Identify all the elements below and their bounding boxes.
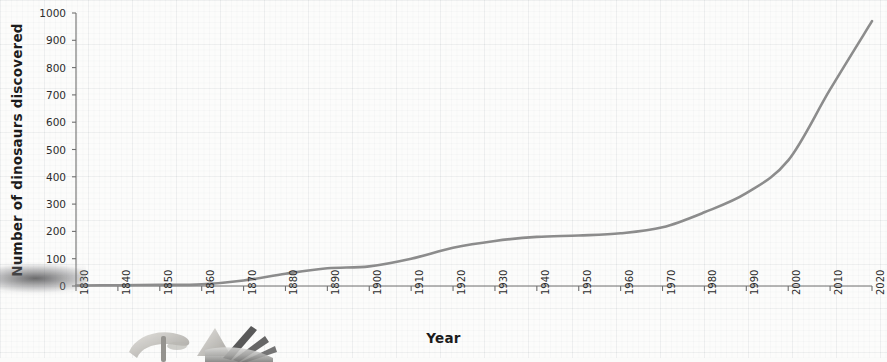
y-tick-label: 800 [24,63,66,74]
y-axis-title-text: Number of dinosaurs discovered [9,23,25,276]
y-tick-label: 100 [24,254,66,265]
x-tick-label: 1990 [750,270,760,295]
x-tick-label: 2020 [876,270,886,295]
x-tick-label: 1850 [164,270,174,295]
y-tick-label: 700 [24,90,66,101]
x-tick-label: 1890 [331,270,341,295]
x-axis-title-text: Year [426,330,460,346]
data-series-line [76,21,872,285]
y-tick-label: 600 [24,117,66,128]
x-tick-label: 1870 [248,270,258,295]
x-tick-label: 1940 [541,270,551,295]
x-tick-label: 1840 [122,270,132,295]
x-tick-label: 2000 [792,270,802,295]
x-tick-label: 1980 [708,270,718,295]
y-tick-label: 200 [24,226,66,237]
y-axis-ticks [72,13,76,286]
x-tick-label: 1900 [373,270,383,295]
x-tick-label: 1930 [499,270,509,295]
x-tick-label: 1970 [667,270,677,295]
y-tick-label: 900 [24,35,66,46]
y-tick-label: 500 [24,145,66,156]
y-axis-title: Number of dinosaurs discovered [6,0,28,300]
x-tick-label: 1830 [80,270,90,295]
y-tick-label: 1000 [24,8,66,19]
x-tick-label: 1920 [457,270,467,295]
x-tick-label: 1910 [415,270,425,295]
x-tick-label: 2010 [834,270,844,295]
x-tick-label: 1860 [206,270,216,295]
y-tick-label: 400 [24,172,66,183]
chart-axes [72,13,872,291]
x-axis-title: Year [0,330,887,346]
x-tick-label: 1960 [625,270,635,295]
y-tick-label: 300 [24,199,66,210]
x-tick-label: 1950 [583,270,593,295]
y-tick-label: 0 [24,281,66,292]
x-tick-label: 1880 [289,270,299,295]
